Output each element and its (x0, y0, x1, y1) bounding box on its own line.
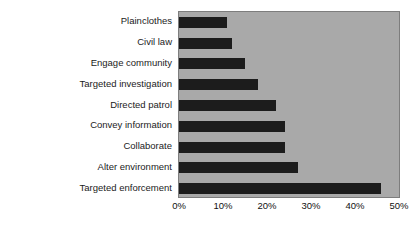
bar-chart-figure: PlainclothesCivil lawEngage communityTar… (0, 0, 418, 229)
bar (179, 17, 227, 28)
value-tick-label: 20% (257, 200, 276, 211)
value-axis: 0%10%20%30%40%50% (0, 200, 418, 216)
value-tick-label: 30% (301, 200, 320, 211)
category-label: Targeted investigation (80, 74, 172, 94)
value-tick-label: 10% (213, 200, 232, 211)
bar (179, 162, 298, 173)
bar (179, 58, 245, 69)
category-label: Convey information (90, 115, 172, 135)
value-tick-label: 40% (345, 200, 364, 211)
category-label: Alter environment (98, 157, 172, 177)
category-label: Collaborate (123, 136, 172, 156)
category-label: Civil law (137, 32, 172, 52)
bar (179, 121, 285, 132)
value-tick-label: 0% (172, 200, 186, 211)
category-label: Engage community (91, 53, 172, 73)
plot-area (178, 11, 400, 198)
category-label: Plainclothes (121, 11, 172, 31)
bar (179, 100, 276, 111)
category-axis: PlainclothesCivil lawEngage communityTar… (0, 11, 176, 198)
bar (179, 38, 232, 49)
bar (179, 142, 285, 153)
value-tick-label: 50% (389, 200, 408, 211)
category-label: Directed patrol (110, 95, 172, 115)
chart-title (0, 0, 418, 3)
category-label: Targeted enforcement (80, 178, 172, 198)
bar (179, 183, 381, 194)
bar (179, 79, 258, 90)
